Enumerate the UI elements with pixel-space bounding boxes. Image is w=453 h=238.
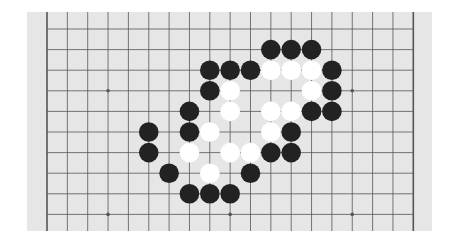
star-point xyxy=(106,89,110,93)
black-stone xyxy=(180,122,200,142)
black-stone xyxy=(241,60,261,80)
go-board xyxy=(27,12,432,231)
black-stone xyxy=(200,60,220,80)
black-stone xyxy=(139,122,159,142)
black-stone xyxy=(220,60,240,80)
white-stone xyxy=(220,81,240,101)
black-stone xyxy=(302,102,322,122)
white-stone xyxy=(220,102,240,122)
black-stone xyxy=(241,163,261,183)
white-stone xyxy=(261,102,281,122)
black-stone xyxy=(180,184,200,204)
white-stone xyxy=(261,122,281,142)
white-stone xyxy=(180,143,200,163)
black-stone xyxy=(281,40,301,60)
star-point xyxy=(228,213,232,217)
black-stone xyxy=(180,102,200,122)
black-stone xyxy=(139,143,159,163)
star-point xyxy=(350,89,354,93)
black-stone xyxy=(159,163,179,183)
go-board-grid xyxy=(27,12,432,231)
white-stone xyxy=(241,143,261,163)
black-stone xyxy=(200,184,220,204)
white-stone xyxy=(302,60,322,80)
black-stone xyxy=(322,60,342,80)
black-stone xyxy=(200,81,220,101)
white-stone xyxy=(200,122,220,142)
black-stone xyxy=(302,40,322,60)
black-stone xyxy=(322,102,342,122)
white-stone xyxy=(281,102,301,122)
white-stone xyxy=(302,81,322,101)
black-stone xyxy=(281,122,301,142)
white-stone xyxy=(200,163,220,183)
black-stone xyxy=(261,143,281,163)
black-stone xyxy=(322,81,342,101)
star-point xyxy=(106,213,110,217)
white-stone xyxy=(281,60,301,80)
black-stone xyxy=(261,40,281,60)
black-stone xyxy=(281,143,301,163)
white-stone xyxy=(220,143,240,163)
black-stone xyxy=(220,184,240,204)
star-point xyxy=(350,213,354,217)
white-stone xyxy=(261,60,281,80)
